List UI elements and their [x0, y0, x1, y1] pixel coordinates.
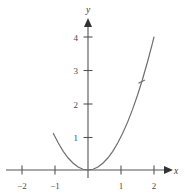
- x-tick-label-1: 1: [119, 181, 124, 191]
- y-tick-label-3: 3: [74, 66, 79, 76]
- y-tick-label-2: 2: [74, 100, 79, 110]
- parabola-curve: [53, 37, 154, 170]
- y-axis-arrow-icon: [84, 18, 92, 27]
- y-tick-label-4: 4: [74, 33, 79, 43]
- x-tick-label-minus2: −2: [17, 181, 27, 191]
- y-axis-label: y: [85, 5, 91, 15]
- figure-container: x −2 −1 1 2 y 1 2 3 4: [0, 0, 185, 196]
- x-tick-label-2: 2: [152, 181, 157, 191]
- x-axis-arrow-icon: [164, 166, 173, 174]
- y-axis: y 1 2 3 4: [74, 5, 93, 178]
- x-tick-label-minus1: −1: [50, 181, 60, 191]
- parabola-plot: x −2 −1 1 2 y 1 2 3 4: [0, 0, 185, 196]
- x-axis-label: x: [173, 166, 179, 176]
- y-tick-label-1: 1: [74, 133, 79, 143]
